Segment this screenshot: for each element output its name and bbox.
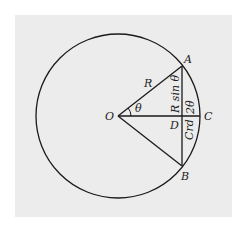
label-r: R: [143, 77, 152, 90]
label-b: B: [180, 170, 189, 183]
label-d: D: [169, 119, 179, 132]
label-theta: θ: [135, 102, 142, 115]
angle-arc-theta: [128, 108, 131, 116]
label-a: A: [183, 53, 192, 66]
chord-diagram: A B C D O R θ R sin θ 2θ Crd: [0, 0, 241, 231]
label-c: C: [204, 110, 213, 123]
label-crd: Crd: [183, 119, 196, 140]
label-two-theta: 2θ: [184, 100, 197, 115]
label-o: O: [105, 110, 114, 123]
label-rsin-theta: R sin θ: [169, 74, 182, 114]
